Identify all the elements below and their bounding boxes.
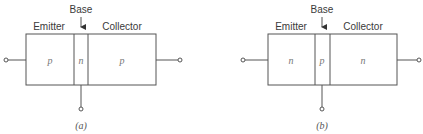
collector-label: Collector bbox=[102, 21, 142, 32]
collector-region-type: n bbox=[361, 55, 366, 66]
base-terminal-icon bbox=[320, 107, 324, 111]
caption-b: (b) bbox=[316, 120, 328, 132]
collector-terminal-icon bbox=[417, 58, 421, 62]
caption-a: (a) bbox=[75, 120, 87, 132]
transistor-body bbox=[268, 34, 397, 85]
emitter-terminal-icon bbox=[241, 58, 245, 62]
base-terminal-icon bbox=[79, 107, 83, 111]
emitter-label: Emitter bbox=[275, 21, 307, 32]
base-label: Base bbox=[311, 4, 334, 15]
base-label: Base bbox=[70, 4, 93, 15]
base-region-type: n bbox=[79, 55, 84, 66]
emitter-region-type: n bbox=[289, 55, 294, 66]
transistor-body bbox=[26, 34, 156, 85]
collector-terminal-icon bbox=[178, 58, 182, 62]
diagram-a-pnp: Base Emitter Collector p n p (a) bbox=[4, 4, 182, 132]
collector-label: Collector bbox=[343, 21, 383, 32]
diagram-b-npn: Base Emitter Collector n p n (b) bbox=[241, 4, 421, 132]
collector-region-type: p bbox=[119, 55, 125, 66]
transistor-diagrams: Base Emitter Collector p n p (a) Base Em… bbox=[0, 0, 423, 134]
emitter-label: Emitter bbox=[33, 21, 65, 32]
emitter-terminal-icon bbox=[4, 58, 8, 62]
emitter-region-type: p bbox=[47, 55, 53, 66]
base-region-type: p bbox=[319, 55, 325, 66]
